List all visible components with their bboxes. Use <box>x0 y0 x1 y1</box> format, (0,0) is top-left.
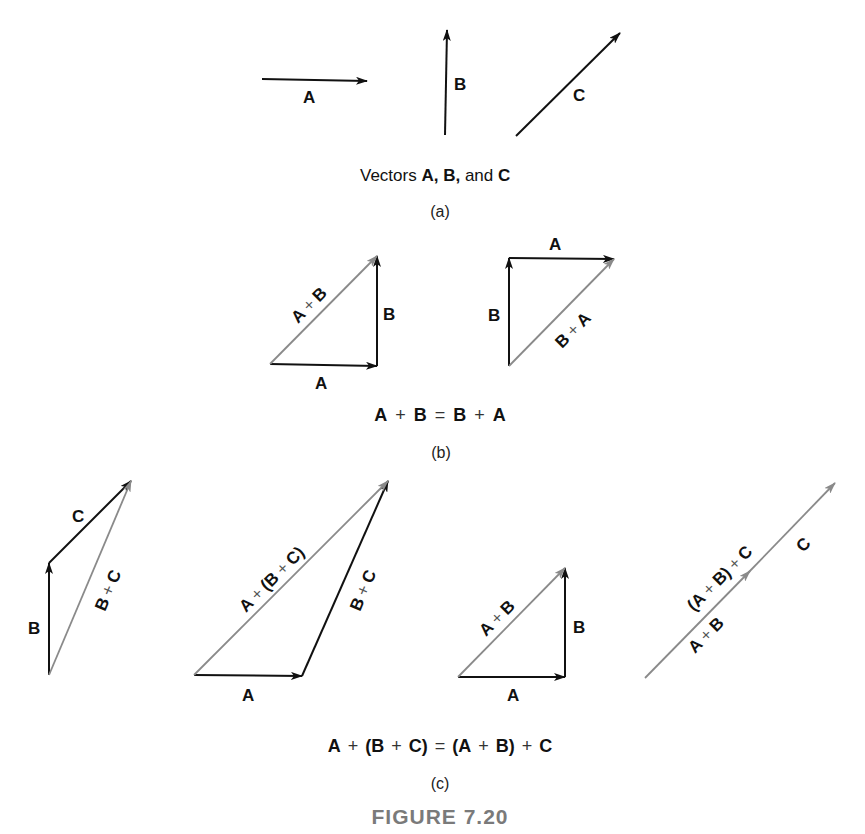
vector-a-label: A <box>242 686 254 705</box>
b-plus-c-label: B+C <box>346 567 380 614</box>
label-term: C <box>358 567 380 586</box>
eq-plus: + <box>348 736 359 756</box>
label-term: B <box>91 595 113 614</box>
part-a-sublabel: (a) <box>430 203 450 220</box>
part-b-sublabel: (b) <box>431 444 451 461</box>
eq-plus: + <box>391 736 402 756</box>
eq-term: B <box>414 405 427 425</box>
eq-term: A <box>493 405 506 425</box>
resultant-a-plus-b-arrow <box>270 256 377 364</box>
caption-and: and <box>460 166 498 185</box>
eq-term: C <box>539 736 552 756</box>
vector-b-label: B <box>454 75 466 94</box>
figure-title: FIGURE 7.20 <box>371 805 508 828</box>
vector-b-label: B <box>573 618 585 637</box>
resultant-b-plus-a-arrow <box>509 259 614 366</box>
vector-a-label: A <box>549 235 561 254</box>
triangle-b-plus-a: A B B+A <box>488 235 614 366</box>
vector-a-arrow <box>270 364 377 366</box>
diagram-b-plus-c: B C B+C <box>28 481 131 675</box>
vector-c-label: C <box>72 507 84 526</box>
figure-canvas: A B C Vectors A, B, and C (a) A B A+B A <box>0 0 865 834</box>
part-c-sublabel: (c) <box>431 775 450 792</box>
eq-term: B) <box>496 736 515 756</box>
caption-a: A, <box>421 166 438 185</box>
vector-a-label: A <box>507 686 519 705</box>
resultant-label: A+(B+C) <box>235 543 308 616</box>
vector-a-plus-b-arrow <box>645 571 750 678</box>
triangle-a-plus-b: A B A+B <box>270 256 395 393</box>
commutative-equation: A+B=B+A <box>374 405 506 425</box>
part-c: B C B+C A B+C A+(B+C) A B <box>28 481 835 792</box>
resultant-a-plus-b-arrow <box>458 568 565 677</box>
caption-prefix: Vectors <box>360 166 421 185</box>
vector-b-label: B <box>28 619 40 638</box>
resultant-label: A+B <box>287 283 330 326</box>
eq-term: (A <box>452 736 471 756</box>
vector-c-label: C <box>573 86 585 105</box>
vector-c-arrow <box>516 33 620 136</box>
associative-equation: A+(B+C)=(A+B)+C <box>328 736 553 756</box>
eq-equals: = <box>435 736 446 756</box>
vector-a-arrow <box>509 258 614 259</box>
vector-c-arrow <box>49 481 131 563</box>
vector-c-arrow <box>748 483 835 573</box>
resultant-label: B+A <box>551 308 594 351</box>
vector-c-label: C <box>792 534 814 556</box>
eq-term: A <box>374 405 387 425</box>
resultant-label: A+B <box>475 596 518 639</box>
eq-plus: + <box>478 736 489 756</box>
resultant-label: B+C <box>91 567 125 614</box>
vector-b-label: B <box>488 306 500 325</box>
diagram-a-plus-bc: A B+C A+(B+C) <box>194 481 388 705</box>
diagram-a-plus-b: A B A+B <box>458 568 585 705</box>
vector-a-label: A <box>303 88 315 107</box>
vector-a-label: A <box>315 374 327 393</box>
caption-c: C <box>498 166 510 185</box>
a-plus-b-label: A+B <box>684 613 727 656</box>
eq-equals: = <box>435 405 446 425</box>
label-term: B <box>346 595 368 614</box>
resultant-label: (A+B)+C <box>683 542 756 615</box>
part-b: A B A+B A B B+A A+B=B+A (b) <box>270 235 614 461</box>
eq-term: A <box>328 736 341 756</box>
diagram-ab-plus-c: (A+B)+C A+B C <box>645 483 835 678</box>
eq-term: B <box>453 405 466 425</box>
vector-a-arrow <box>262 79 367 81</box>
caption-b: B, <box>443 166 460 185</box>
eq-plus: + <box>395 405 406 425</box>
eq-plus: + <box>522 736 533 756</box>
label-term: C <box>103 567 125 586</box>
vector-b-label: B <box>383 305 395 324</box>
vector-a-arrow <box>194 675 302 676</box>
eq-plus: + <box>474 405 485 425</box>
part-a: A B C Vectors A, B, and C (a) <box>262 30 620 220</box>
eq-term: (B <box>365 736 384 756</box>
eq-term: C) <box>409 736 428 756</box>
part-a-caption: Vectors A, B, and C <box>360 166 510 185</box>
vector-b-arrow <box>445 30 447 135</box>
